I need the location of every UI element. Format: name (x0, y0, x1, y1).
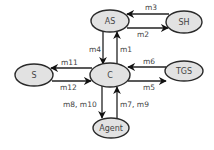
edge-label-m1: m1 (120, 45, 132, 54)
node-tgs: TGS (165, 61, 203, 81)
edge-label-m4: m4 (89, 45, 101, 54)
node-label-s: S (31, 71, 36, 80)
edge-m1: m1 (117, 32, 132, 64)
edge-label-m2: m2 (137, 30, 149, 39)
edge-m3: m3 (127, 3, 169, 14)
node-s: S (15, 64, 53, 86)
node-label-tgs: TGS (175, 67, 192, 76)
node-sh: SH (166, 11, 202, 33)
edge-m5: m5 (128, 81, 166, 92)
node-as: AS (91, 10, 129, 32)
edge-label-m8-m10: m8, m10 (63, 100, 97, 109)
protocol-message-flow-diagram: m3 m2 m4 m1 m11 m12 m6 m5 m8, m10 m7, m9 (0, 0, 214, 150)
edge-label-m11: m11 (61, 58, 78, 67)
node-label-agent: Agent (99, 124, 123, 133)
edge-label-m7-m9: m7, m9 (120, 100, 149, 109)
edge-m11: m11 (51, 58, 92, 68)
node-label-sh: SH (178, 18, 189, 27)
node-c: C (90, 63, 130, 87)
edge-label-m5: m5 (143, 83, 155, 92)
edge-label-m6: m6 (143, 57, 155, 66)
edge-m4: m4 (89, 31, 103, 64)
edge-m2: m2 (127, 28, 168, 39)
edge-m6: m6 (128, 57, 166, 67)
edge-m12: m12 (52, 81, 91, 92)
node-agent: Agent (93, 118, 129, 138)
node-label-c: C (107, 71, 113, 80)
node-label-as: AS (105, 17, 116, 26)
edge-label-m12: m12 (60, 83, 77, 92)
edge-label-m3: m3 (145, 3, 157, 12)
